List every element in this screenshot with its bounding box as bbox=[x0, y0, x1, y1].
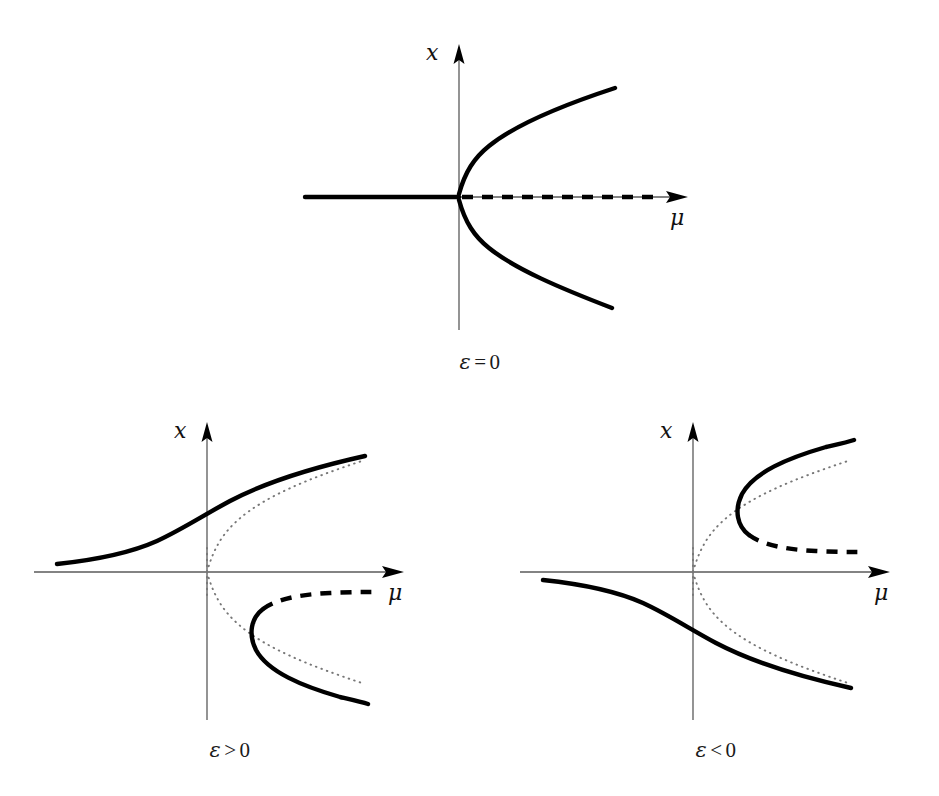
caption-relation: < bbox=[707, 738, 725, 762]
caption-relation: = bbox=[471, 350, 489, 374]
caption-relation: > bbox=[221, 738, 239, 762]
x-axis-label: μ bbox=[388, 580, 402, 605]
lower-parabola-branch bbox=[459, 200, 612, 308]
caption-value: 0 bbox=[490, 350, 501, 374]
panel-epsilon-positive: x μ ε>0 bbox=[20, 408, 440, 728]
disconnected-stable-branch bbox=[252, 609, 368, 704]
panel-epsilon-zero-plot: x μ bbox=[270, 30, 690, 340]
panel-epsilon-positive-plot: x μ bbox=[20, 408, 440, 728]
disconnected-unstable-branch bbox=[263, 592, 372, 609]
ghost-pitchfork-lower bbox=[207, 572, 365, 684]
disconnected-stable-branch bbox=[738, 440, 854, 535]
upper-parabola-branch bbox=[459, 88, 615, 194]
y-axis-label: x bbox=[174, 418, 187, 443]
x-axis-label: μ bbox=[670, 205, 684, 230]
horizontal-axis bbox=[459, 191, 688, 203]
bifurcation-figure: x μ ε=0 bbox=[0, 0, 939, 796]
x-axis-label: μ bbox=[874, 580, 888, 605]
panel-epsilon-negative: x μ ε<0 bbox=[506, 408, 926, 728]
y-axis-label: x bbox=[660, 418, 673, 443]
horizontal-axis bbox=[34, 566, 404, 578]
continuous-stable-branch bbox=[57, 456, 365, 564]
horizontal-axis bbox=[520, 566, 890, 578]
panel-epsilon-positive-caption: ε>0 bbox=[20, 738, 440, 763]
panel-epsilon-negative-caption: ε<0 bbox=[506, 738, 926, 763]
panel-epsilon-zero-caption: ε=0 bbox=[270, 350, 690, 375]
panel-epsilon-negative-plot: x μ bbox=[506, 408, 926, 728]
caption-symbol: ε bbox=[695, 738, 707, 762]
disconnected-unstable-branch bbox=[749, 535, 858, 552]
caption-symbol: ε bbox=[459, 350, 471, 374]
panel-epsilon-zero: x μ ε=0 bbox=[270, 30, 690, 340]
caption-symbol: ε bbox=[209, 738, 221, 762]
continuous-stable-branch bbox=[543, 580, 851, 688]
ghost-pitchfork-upper bbox=[693, 460, 851, 572]
caption-value: 0 bbox=[240, 738, 251, 762]
caption-value: 0 bbox=[726, 738, 737, 762]
y-axis-label: x bbox=[426, 40, 439, 65]
